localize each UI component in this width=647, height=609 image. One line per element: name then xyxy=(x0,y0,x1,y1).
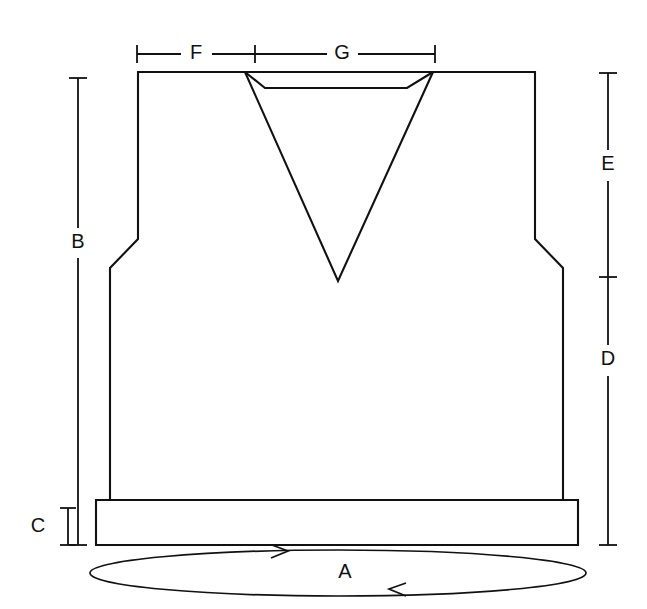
dimension-e-label: E xyxy=(601,152,614,174)
neckline-v-shape xyxy=(245,72,433,281)
dimension-c-group xyxy=(60,508,76,545)
dimension-c-label: C xyxy=(31,514,45,536)
dimension-e-group xyxy=(599,73,617,277)
dimension-b-group xyxy=(69,78,87,545)
dimension-d-group xyxy=(599,277,617,545)
garment-body-group xyxy=(96,72,578,545)
dimension-d-label: D xyxy=(601,347,615,369)
dimension-b-label: B xyxy=(71,230,84,252)
dimension-a-label: A xyxy=(338,560,352,582)
garment-schematic-diagram: F G B C E xyxy=(0,0,647,609)
dimension-g-label: G xyxy=(334,41,350,63)
garment-body-outline xyxy=(96,72,578,545)
neckband-trim xyxy=(245,72,433,88)
dimension-f-label: F xyxy=(190,41,202,63)
circumference-arrow-left-icon xyxy=(389,583,406,596)
garment-schematic-svg: F G B C E xyxy=(0,0,647,609)
